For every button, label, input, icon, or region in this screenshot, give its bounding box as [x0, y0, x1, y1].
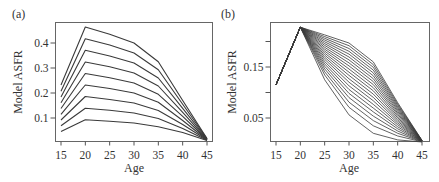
panel-b-y-axis: 0.050.15: [243, 42, 270, 125]
x-tick-label: 15: [55, 149, 67, 161]
series-line: [276, 27, 422, 141]
panel-b-x-axis: 15202530354045: [270, 142, 428, 161]
series-line: [276, 27, 422, 141]
series-line: [276, 27, 422, 141]
x-tick-label: 35: [153, 149, 165, 161]
x-tick-label: 15: [270, 149, 282, 161]
x-tick-label: 25: [319, 149, 331, 161]
series-line: [276, 27, 422, 141]
y-tick-label: 0.15: [243, 61, 263, 73]
series-line: [276, 27, 422, 141]
panel-a: (a) 15202530354045 0.10.20.30.4 Age Mode…: [11, 7, 213, 175]
series-line: [276, 27, 422, 141]
y-tick-label: 0.1: [34, 112, 49, 124]
x-tick-label: 25: [104, 149, 116, 161]
y-tick-label: 0.3: [34, 62, 49, 74]
panel-b-curves: [276, 27, 422, 142]
y-tick-label: 0.05: [243, 112, 263, 124]
series-line: [61, 108, 207, 140]
series-line: [61, 85, 207, 140]
x-tick-label: 45: [201, 149, 213, 161]
panel-a-curves: [61, 27, 207, 141]
panel-a-x-axis-title: Age: [124, 161, 144, 175]
series-line: [276, 27, 422, 141]
panel-a-y-axis: 0.10.20.30.4: [34, 37, 55, 124]
panel-b-x-axis-title: Age: [339, 161, 359, 175]
x-tick-label: 40: [177, 149, 189, 161]
x-tick-label: 30: [128, 149, 140, 161]
series-line: [61, 62, 207, 139]
series-line: [276, 27, 422, 141]
x-tick-label: 30: [343, 149, 355, 161]
x-tick-label: 40: [392, 149, 404, 161]
x-tick-label: 20: [80, 149, 92, 161]
panel-a-x-axis: 15202530354045: [55, 142, 213, 161]
y-tick-label: 0.2: [34, 87, 49, 99]
x-tick-label: 35: [368, 149, 380, 161]
panel-a-y-axis-title: Model ASFR: [11, 50, 25, 114]
panel-b-y-axis-title: Model ASFR: [225, 50, 239, 114]
panel-b-label: (b): [221, 7, 235, 21]
series-line: [276, 27, 422, 141]
panel-a-label: (a): [12, 7, 25, 21]
x-tick-label: 20: [295, 149, 307, 161]
y-tick-label: 0.4: [34, 37, 49, 49]
x-tick-label: 45: [416, 149, 428, 161]
panel-b: (b) 15202530354045 0.050.15 Age Model AS…: [221, 7, 430, 175]
series-line: [276, 27, 422, 141]
chart-figure: (a) 15202530354045 0.10.20.30.4 Age Mode…: [0, 0, 439, 182]
